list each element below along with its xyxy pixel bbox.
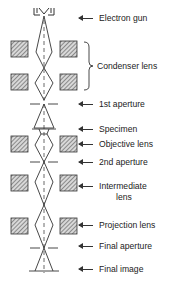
label-final-aperture: Final aperture bbox=[99, 241, 152, 251]
label-intermediate-lens-line2: lens bbox=[116, 192, 132, 202]
label-final-image: Final image bbox=[99, 264, 143, 274]
label-first-aperture: 1st aperture bbox=[99, 99, 145, 109]
arrow-icon bbox=[79, 144, 93, 145]
label-second-aperture: 2nd aperture bbox=[99, 157, 148, 167]
arrow-icon bbox=[79, 162, 93, 163]
label-electron-gun: Electron gun bbox=[99, 13, 147, 23]
label-objective-lens: Objective lens bbox=[99, 139, 153, 149]
label-intermediate-lens-line1: Intermediate bbox=[99, 181, 147, 191]
arrow-icon bbox=[79, 269, 93, 270]
arrow-icon bbox=[79, 18, 93, 19]
label-specimen: Specimen bbox=[99, 124, 137, 134]
condenser-brace-icon bbox=[84, 42, 93, 90]
arrow-icon bbox=[79, 186, 93, 187]
arrow-icon bbox=[79, 104, 93, 105]
electron-gun-icon bbox=[34, 8, 54, 15]
arrow-icon bbox=[79, 129, 93, 130]
label-projection-lens: Projection lens bbox=[99, 220, 155, 230]
label-condenser-lens: Condenser lens bbox=[97, 61, 157, 71]
arrow-icon bbox=[79, 246, 93, 247]
arrow-icon bbox=[79, 225, 93, 226]
